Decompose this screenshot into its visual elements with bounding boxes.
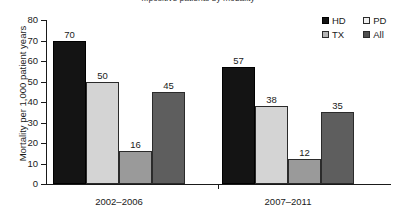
bar-value-2002-2006-tx: 16 bbox=[130, 139, 141, 150]
bar-value-2007-2011-tx: 12 bbox=[299, 147, 310, 158]
y-tick-10: 10 bbox=[41, 164, 46, 165]
legend-label-hd: HD bbox=[332, 15, 346, 26]
bar-2002-2006-pd[interactable]: 50 bbox=[86, 82, 119, 185]
chart-title: ...positive patients by modality bbox=[0, 0, 396, 3]
bar-2002-2006-tx[interactable]: 16 bbox=[119, 151, 152, 184]
bar-value-2007-2011-hd: 57 bbox=[233, 55, 244, 66]
y-tick-40: 40 bbox=[41, 102, 46, 103]
legend-item-all[interactable]: All bbox=[363, 29, 396, 40]
y-tick-30: 30 bbox=[41, 123, 46, 124]
y-tick-label-70: 70 bbox=[27, 35, 38, 46]
bar-value-2002-2006-pd: 50 bbox=[97, 70, 108, 81]
y-axis-line bbox=[46, 20, 47, 185]
bar-value-2002-2006-all: 45 bbox=[163, 80, 174, 91]
bar-chart: ...positive patients by modality Mortali… bbox=[0, 0, 396, 212]
legend-label-all: All bbox=[373, 29, 384, 40]
chart-legend: HD PD TX All bbox=[322, 15, 396, 40]
legend-item-tx[interactable]: TX bbox=[322, 29, 355, 40]
bar-value-2007-2011-all: 35 bbox=[332, 100, 343, 111]
bar-2002-2006-all[interactable]: 45 bbox=[152, 92, 185, 184]
legend-item-pd[interactable]: PD bbox=[363, 15, 396, 26]
y-tick-60: 60 bbox=[41, 61, 46, 62]
bar-2007-2011-all[interactable]: 35 bbox=[321, 112, 354, 184]
x-axis-group-label-2: 2007–2011 bbox=[265, 196, 312, 207]
y-tick-50: 50 bbox=[41, 82, 46, 83]
legend-label-tx: TX bbox=[332, 29, 344, 40]
bar-2002-2006-hd[interactable]: 70 bbox=[53, 41, 86, 185]
legend-swatch-all-icon bbox=[363, 31, 370, 38]
y-tick-0: 0 bbox=[41, 184, 46, 185]
y-tick-label-50: 50 bbox=[27, 76, 38, 87]
y-axis-label: Mortality per 1,000 patient years bbox=[17, 4, 28, 184]
y-tick-label-10: 10 bbox=[27, 158, 38, 169]
y-tick-label-60: 60 bbox=[27, 55, 38, 66]
bar-value-2002-2006-hd: 70 bbox=[64, 29, 75, 40]
legend-item-hd[interactable]: HD bbox=[322, 15, 355, 26]
legend-swatch-hd-icon bbox=[322, 17, 329, 24]
y-tick-label-30: 30 bbox=[27, 117, 38, 128]
bar-value-2007-2011-pd: 38 bbox=[266, 94, 277, 105]
legend-swatch-tx-icon bbox=[322, 31, 329, 38]
y-tick-label-80: 80 bbox=[27, 14, 38, 25]
bar-2007-2011-hd[interactable]: 57 bbox=[222, 67, 255, 184]
y-tick-70: 70 bbox=[41, 41, 46, 42]
bar-2007-2011-tx[interactable]: 12 bbox=[288, 159, 321, 184]
x-tick-group-divider bbox=[218, 184, 219, 189]
y-tick-20: 20 bbox=[41, 143, 46, 144]
legend-swatch-pd-icon bbox=[363, 17, 370, 24]
y-tick-80: 80 bbox=[41, 20, 46, 21]
x-axis-group-label-1: 2002–2006 bbox=[95, 196, 143, 207]
plot-area: 0 10 20 30 40 50 60 70 80 70 bbox=[46, 20, 391, 184]
y-tick-label-0: 0 bbox=[33, 178, 38, 189]
y-tick-label-40: 40 bbox=[27, 96, 38, 107]
legend-label-pd: PD bbox=[373, 15, 386, 26]
bar-2007-2011-pd[interactable]: 38 bbox=[255, 106, 288, 184]
y-tick-label-20: 20 bbox=[27, 137, 38, 148]
